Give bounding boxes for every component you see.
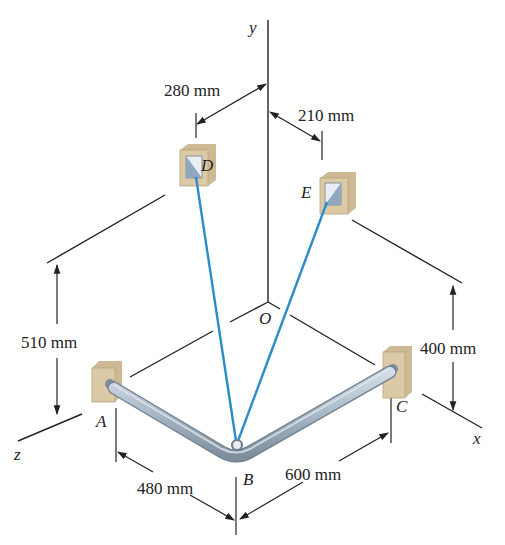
- dimension-label-510: 510 mm: [21, 333, 77, 352]
- dimension-label-480: 480 mm: [137, 479, 193, 498]
- dimension-label-210: 210 mm: [298, 106, 354, 125]
- point-label-d: D: [200, 156, 214, 175]
- point-label-e: E: [300, 183, 312, 202]
- dimension-label-280: 280 mm: [164, 81, 220, 100]
- x-axis: [422, 394, 482, 428]
- origin-label: O: [259, 309, 271, 328]
- floor-axes: [130, 302, 375, 377]
- dimension-label-400: 400 mm: [420, 339, 476, 358]
- wall-line-d: [47, 195, 165, 263]
- axis-label-z: z: [13, 445, 21, 464]
- diagram-canvas: y x z O D E A B C 280 mm 210 mm 510 mm 4…: [0, 0, 505, 545]
- wall-line-e: [352, 220, 462, 283]
- cable-be: [238, 202, 327, 441]
- dimension-label-600: 600 mm: [285, 465, 341, 484]
- point-label-b: B: [243, 470, 254, 489]
- z-axis: [18, 414, 82, 441]
- cable-bd: [196, 177, 236, 441]
- point-label-c: C: [396, 397, 408, 416]
- axis-label-x: x: [472, 429, 481, 448]
- ring-b: [232, 440, 242, 450]
- axis-label-y: y: [247, 18, 257, 37]
- point-label-a: A: [95, 412, 107, 431]
- pipe-abc: [114, 369, 390, 456]
